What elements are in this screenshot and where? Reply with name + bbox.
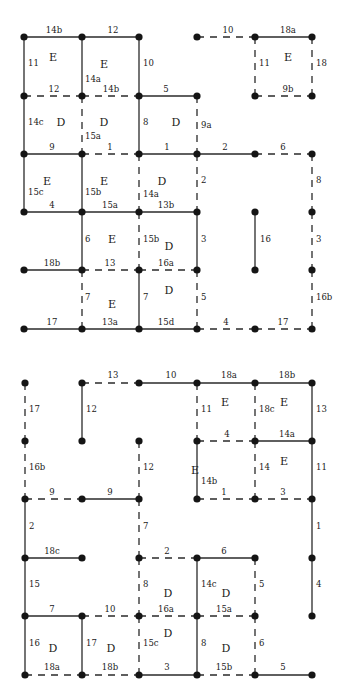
- edge-label: 7: [49, 604, 54, 614]
- edge-label: 2: [164, 546, 169, 556]
- edge-label: 15c: [143, 638, 159, 648]
- vertex-node: [193, 92, 200, 99]
- vertex-node: [193, 325, 200, 332]
- vertex-node: [135, 612, 142, 619]
- edge-label: 18a: [221, 370, 237, 380]
- edge-label: 16b: [316, 292, 333, 302]
- edge-label: 18a: [280, 25, 296, 35]
- edge-label: 1: [107, 142, 112, 152]
- face-label-D: D: [100, 116, 109, 129]
- edge-label: 3: [316, 234, 321, 244]
- edge-label: 12: [86, 404, 97, 414]
- vertex-node: [251, 671, 258, 678]
- vertex-node: [193, 554, 200, 561]
- vertex-node: [135, 495, 142, 502]
- edge-label: 8: [143, 579, 148, 589]
- edge-label: 11: [201, 404, 212, 414]
- vertex-node: [135, 92, 142, 99]
- vertex-node: [21, 379, 28, 386]
- edge-label: 13: [108, 370, 119, 380]
- vertex-node: [21, 671, 28, 678]
- face-label-D: D: [158, 175, 167, 188]
- face-label-E: E: [49, 51, 57, 64]
- edge-label: 9: [107, 487, 112, 497]
- vertex-node: [78, 495, 85, 502]
- vertex-node: [251, 612, 258, 619]
- edge-label: 18: [316, 58, 327, 68]
- edge-label: 4: [224, 429, 229, 439]
- diagram-bottom: 131018a18b17121118c13414a16b1214b1411991…: [21, 370, 326, 679]
- vertex-node: [135, 379, 142, 386]
- vertex-node: [78, 671, 85, 678]
- vertex-node: [251, 92, 258, 99]
- edge-label: 2: [222, 142, 227, 152]
- figure-canvas: 14b121018a1114a1011181214b59b14c15a89a91…: [0, 0, 345, 684]
- vertex-node: [21, 437, 28, 444]
- edge-label: 18a: [44, 662, 60, 672]
- vertex-node: [193, 495, 200, 502]
- edge-label: 11: [316, 462, 327, 472]
- edge-label: 12: [108, 25, 119, 35]
- vertex-node: [21, 554, 28, 561]
- edge-label: 14a: [143, 189, 159, 199]
- edge-label: 14b: [103, 84, 120, 94]
- edge-label: 3: [164, 662, 169, 672]
- edge-label: 8: [201, 638, 206, 648]
- face-label-D: D: [172, 116, 181, 129]
- edge-label: 7: [143, 292, 148, 302]
- vertex-node: [308, 266, 315, 273]
- vertex-node: [193, 437, 200, 444]
- edge-label: 1: [316, 521, 321, 531]
- face-label-D: D: [165, 284, 174, 297]
- vertex-node: [193, 208, 200, 215]
- edge-label: 16b: [29, 462, 46, 472]
- edge-label: 14c: [201, 579, 217, 589]
- edge-label: 13a: [102, 317, 118, 327]
- face-label-D: D: [222, 642, 231, 655]
- edge-label: 8: [143, 117, 148, 127]
- face-label-E: E: [43, 175, 51, 188]
- diagram-top: 14b121018a1114a1011181214b59b14c15a89a91…: [20, 25, 332, 333]
- edge-label: 14: [259, 462, 270, 472]
- edge-label: 6: [221, 546, 226, 556]
- edge-label: 15c: [28, 187, 44, 197]
- edge-label: 16a: [158, 604, 174, 614]
- face-label-D: D: [49, 642, 58, 655]
- edge-label: 15b: [85, 187, 102, 197]
- vertex-node: [251, 495, 258, 502]
- edge-label: 9b: [283, 84, 294, 94]
- vertex-node: [308, 208, 315, 215]
- edge-label: 14a: [279, 429, 295, 439]
- edge-label: 3: [280, 487, 285, 497]
- edge-label: 2: [29, 521, 34, 531]
- face-label-E: E: [221, 396, 229, 409]
- edge-label: 6: [259, 638, 264, 648]
- vertex-node: [251, 33, 258, 40]
- vertex-node: [135, 671, 142, 678]
- edge-label: 15d: [158, 317, 175, 327]
- edge-label: 16a: [158, 258, 174, 268]
- vertex-node: [193, 379, 200, 386]
- edge-label: 14b: [201, 476, 218, 486]
- vertex-node: [78, 92, 85, 99]
- edge-label: 16: [29, 638, 40, 648]
- vertex-node: [20, 325, 27, 332]
- vertex-node: [308, 554, 315, 561]
- vertex-node: [21, 495, 28, 502]
- vertex-node: [78, 208, 85, 215]
- vertex-node: [251, 208, 258, 215]
- vertex-node: [251, 437, 258, 444]
- face-label-D: D: [165, 240, 174, 253]
- edge-label: 9: [49, 142, 54, 152]
- vertex-node: [308, 325, 315, 332]
- edge-label: 10: [105, 604, 116, 614]
- vertex-node: [193, 671, 200, 678]
- vertex-node: [135, 325, 142, 332]
- vertex-node: [135, 150, 142, 157]
- edge-label: 18b: [44, 258, 61, 268]
- edge-label: 17: [47, 317, 58, 327]
- vertex-node: [20, 33, 27, 40]
- vertex-node: [251, 266, 258, 273]
- edge-label: 6: [280, 142, 285, 152]
- vertex-node: [308, 379, 315, 386]
